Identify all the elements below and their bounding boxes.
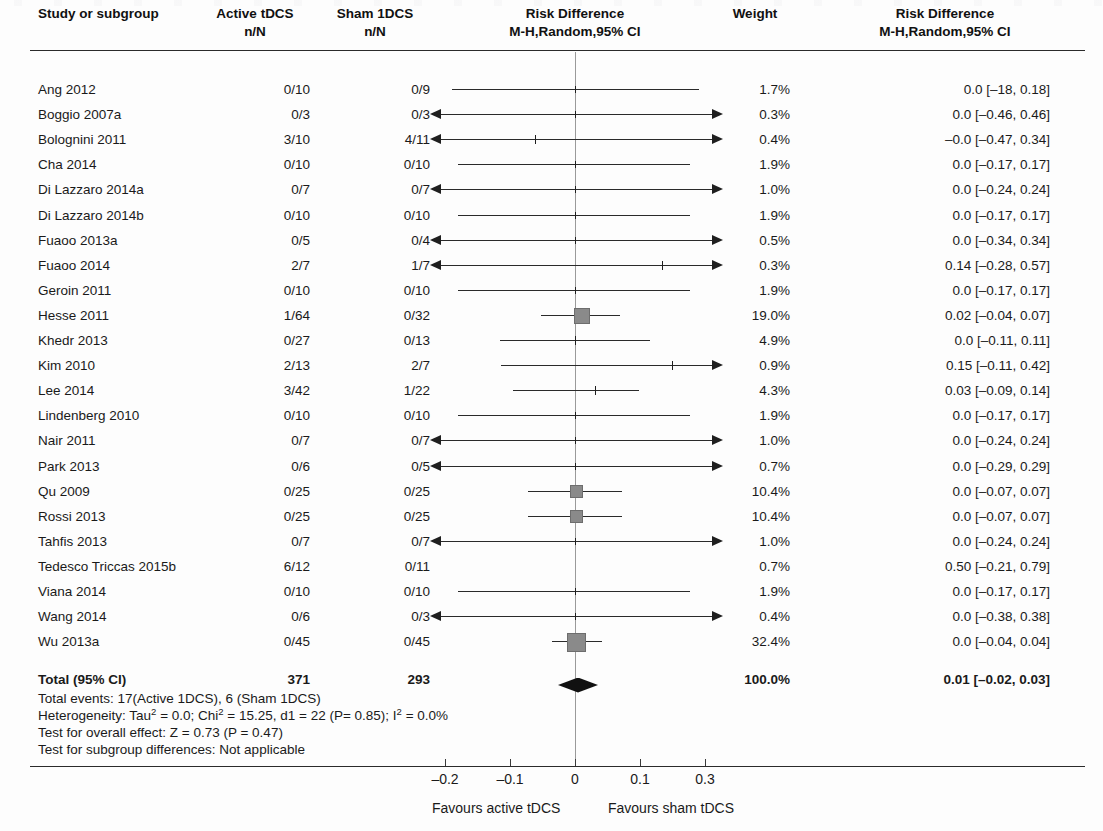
row-risk-difference: 0.0 [–0.17, 0.17] [820,157,1050,172]
overall-effect-line: Test for overall effect: Z = 0.73 (P = 0… [38,725,283,741]
ci-arrow-right-icon [712,184,723,194]
row-active-events: 0/10 [200,283,310,298]
row-weight: 19.0% [690,308,790,323]
row-sham-events: 0/10 [320,208,430,223]
row-active-events: 0/10 [200,408,310,423]
ci-arrow-right-icon [712,360,723,370]
axis-tick-label: –0.2 [415,771,475,787]
effect-point-marker [575,588,576,595]
confidence-interval-line [441,616,712,617]
heterogeneity-a: = 0.0; Chi [156,708,218,723]
confidence-interval-line [513,390,639,391]
row-sham-events: 1/22 [320,383,430,398]
effect-point-marker [575,111,576,118]
effect-point-marker [575,161,576,168]
row-sham-events: 0/7 [320,433,430,448]
confidence-interval-line [441,189,712,190]
row-risk-difference: 0.0 [–0.29, 0.29] [820,459,1050,474]
row-weight: 4.9% [690,333,790,348]
ci-arrow-left-icon [430,235,441,245]
row-sham-events: 0/10 [320,157,430,172]
ci-arrow-left-icon [430,611,441,621]
header-plot-subtitle: M-H,Random,95% CI [440,24,710,40]
row-risk-difference: 0.0 [–0.17, 0.17] [820,408,1050,423]
row-risk-difference: 0.0 [–0.24, 0.24] [820,182,1050,197]
confidence-interval-line [441,265,712,266]
total-weight: 100.0% [690,672,790,687]
confidence-interval-line [458,290,690,291]
heterogeneity-b: = 15.25, d1 = 22 (P= 0.85); I [224,708,397,723]
effect-point-marker [575,336,576,345]
axis-tick-label: 0.1 [610,771,670,787]
favours-active-label: Favours active tDCS [432,800,560,816]
row-active-events: 3/42 [200,383,310,398]
effect-size-marker [567,633,586,652]
row-weight: 10.4% [690,509,790,524]
axis-tick-label: –0.1 [480,771,540,787]
effect-size-marker [574,308,590,324]
axis-tick-mark [640,759,641,766]
row-weight: 10.4% [690,484,790,499]
row-sham-events: 2/7 [320,358,430,373]
effect-size-marker [570,485,583,498]
ci-arrow-right-icon [712,435,723,445]
header-active-nn: n/N [190,24,320,40]
row-sham-events: 0/3 [320,609,430,624]
effect-point-marker [575,212,576,219]
row-sham-events: 0/32 [320,308,430,323]
effect-point-marker [575,437,576,444]
zero-effect-line [575,52,576,766]
confidence-interval-line [458,215,690,216]
row-active-events: 2/13 [200,358,310,373]
ci-arrow-right-icon [712,461,723,471]
forest-plot-page: Study or subgroup Active tDCS n/N Sham 1… [0,0,1103,831]
row-sham-events: 0/10 [320,283,430,298]
axis-tick-label: 0 [545,771,605,787]
row-active-events: 2/7 [200,258,310,273]
row-weight: 1.9% [690,584,790,599]
effect-point-marker [575,186,576,193]
row-weight: 0.7% [690,559,790,574]
effect-point-marker [662,261,663,270]
row-weight: 4.3% [690,383,790,398]
header-plot-title: Risk Difference [440,6,710,22]
row-risk-difference: 0.0 [–0.07, 0.07] [820,509,1050,524]
row-risk-difference: 0.0 [–0.11, 0.11] [820,333,1050,348]
effect-point-marker [575,538,576,545]
confidence-interval-line [458,591,690,592]
confidence-interval-line [441,466,712,467]
row-risk-difference: 0.0 [–18, 0.18] [820,82,1050,97]
axis-tick-mark [705,759,706,766]
row-risk-difference: 0.0 [–0.17, 0.17] [820,584,1050,599]
row-risk-difference: –0.0 [–0.47, 0.34] [820,132,1050,147]
row-sham-events: 0/5 [320,459,430,474]
row-risk-difference: 0.0 [–0.24, 0.24] [820,433,1050,448]
ci-arrow-right-icon [712,109,723,119]
confidence-interval-line [441,440,712,441]
ci-arrow-right-icon [712,134,723,144]
forest-plot-canvas [430,52,700,766]
row-weight: 1.9% [690,157,790,172]
subgroup-differences-line: Test for subgroup differences: Not appli… [38,742,305,758]
axis-tick-mark [575,759,576,766]
row-active-events: 0/10 [200,208,310,223]
header-sham-tdcs: Sham 1DCS [310,6,440,22]
row-active-events: 0/25 [200,484,310,499]
row-risk-difference: 0.0 [–0.07, 0.07] [820,484,1050,499]
ci-arrow-right-icon [712,536,723,546]
row-sham-events: 0/10 [320,584,430,599]
row-active-events: 0/5 [200,233,310,248]
row-sham-events: 0/11 [320,559,430,574]
effect-point-marker [672,361,673,370]
row-risk-difference: 0.14 [–0.28, 0.57] [820,258,1050,273]
header-weight: Weight [700,6,810,22]
row-active-events: 0/7 [200,182,310,197]
axis-rule [30,766,1085,767]
confidence-interval-line [441,139,712,140]
row-sham-events: 0/45 [320,634,430,649]
axis-tick-label: 0.3 [675,771,735,787]
row-sham-events: 0/7 [320,534,430,549]
row-active-events: 0/45 [200,634,310,649]
effect-point-marker [575,613,576,620]
row-risk-difference: 0.0 [–0.04, 0.04] [820,634,1050,649]
